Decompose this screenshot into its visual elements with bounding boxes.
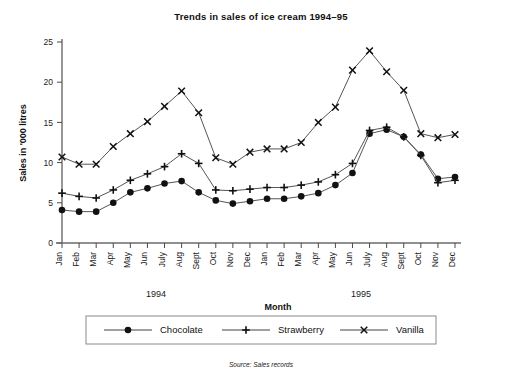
y-axis: 0510152025 — [44, 37, 62, 248]
x-tick-label: May — [327, 251, 337, 268]
chart-title: Trends in sales of ice cream 1994–95 — [174, 11, 348, 22]
legend-item-strawberry[interactable]: Strawberry — [222, 324, 324, 335]
x-axis-group-label: 1995 — [351, 289, 371, 299]
source-note: Source: Sales records — [229, 361, 294, 368]
x-axis: JanFebMarAprMayJunJulyAugSeptOctNovDecJa… — [54, 243, 461, 299]
data-series-group — [58, 48, 459, 215]
y-tick-label: 0 — [48, 238, 53, 248]
y-axis-title: Sales in '000 litres — [18, 104, 28, 182]
series-chocolate — [59, 126, 459, 215]
x-tick-label: May — [122, 251, 132, 268]
y-tick-label: 10 — [44, 158, 54, 168]
chart-legend: ChocolateStrawberryVanilla — [86, 316, 436, 344]
x-tick-label: Feb — [276, 252, 286, 267]
y-tick-label: 15 — [44, 118, 54, 128]
x-tick-label: Sept — [191, 251, 201, 269]
x-tick-label: Oct — [413, 251, 423, 265]
x-tick-label: Jan — [54, 252, 64, 266]
x-tick-label: Apr — [310, 252, 320, 265]
y-tick-label: 20 — [44, 77, 54, 87]
x-tick-label: Jun — [344, 252, 354, 266]
x-tick-label: Sept — [396, 251, 406, 269]
legend-item-vanilla[interactable]: Vanilla — [340, 324, 425, 335]
x-tick-label: July — [362, 251, 372, 267]
x-tick-label: Apr — [105, 252, 115, 265]
legend-item-label: Vanilla — [396, 324, 425, 335]
x-tick-label: Feb — [71, 252, 81, 267]
legend-item-chocolate[interactable]: Chocolate — [104, 324, 203, 335]
x-axis-title: Month — [265, 302, 292, 312]
x-tick-label: Mar — [88, 252, 98, 267]
x-tick-label: Nov — [430, 251, 440, 267]
x-tick-label: Jun — [139, 252, 149, 266]
y-tick-label: 5 — [48, 198, 53, 208]
x-tick-label: Jan — [259, 252, 269, 266]
x-axis-group-label: 1994 — [146, 289, 166, 299]
legend-item-label: Chocolate — [160, 324, 203, 335]
ice-cream-sales-line-chart: Trends in sales of ice cream 1994–95 Sal… — [0, 0, 522, 383]
x-tick-label: Dec — [242, 251, 252, 267]
x-tick-label: July — [157, 251, 167, 267]
series-vanilla — [59, 48, 459, 168]
x-tick-label: Mar — [293, 252, 303, 267]
legend-item-label: Strawberry — [278, 324, 324, 335]
x-tick-label: Nov — [225, 251, 235, 267]
x-tick-label: Aug — [379, 252, 389, 267]
y-tick-label: 25 — [44, 37, 54, 47]
x-tick-label: Dec — [447, 251, 457, 267]
chart-container: Trends in sales of ice cream 1994–95 Sal… — [0, 0, 522, 383]
x-tick-label: Aug — [174, 252, 184, 267]
x-tick-label: Oct — [208, 251, 218, 265]
